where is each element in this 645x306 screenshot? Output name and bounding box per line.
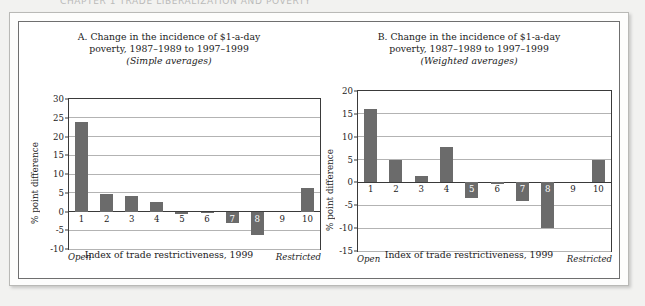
chart-b-y-tick-label: 0 xyxy=(348,177,353,187)
chart-a-bar xyxy=(301,188,314,212)
chart-a-y-tick-mark xyxy=(65,117,69,118)
chart-a-y-tick-label: 10 xyxy=(53,169,64,179)
panel-a-title: A. Change in the incidence of $1-a-day p… xyxy=(19,31,319,68)
chart-b-x-axis-title: Index of trade restrictiveness, 1999 xyxy=(319,249,619,260)
chart-a-gridline xyxy=(69,192,320,193)
chart-b-y-tick-mark xyxy=(354,205,358,206)
panel-a-title-line1: A. Change in the incidence of $1-a-day xyxy=(19,31,319,43)
chart-a-gridline xyxy=(69,230,320,231)
chart-a-bar xyxy=(125,196,138,212)
chart-a-gridline xyxy=(69,155,320,156)
chart-b-y-tick-label: -5 xyxy=(345,200,353,210)
chart-a-bar xyxy=(100,194,113,211)
chart-a-bar xyxy=(75,122,88,211)
chart-b-x-tick-label: 2 xyxy=(393,184,398,195)
panel-a: A. Change in the incidence of $1-a-day p… xyxy=(19,22,319,278)
chart-b-gridline xyxy=(358,205,611,206)
chart-a-y-tick-label: 15 xyxy=(53,150,64,160)
panel-b-title-line1: B. Change in the incidence of $1-a-day xyxy=(319,31,619,43)
chart-panels-container: A. Change in the incidence of $1-a-day p… xyxy=(19,22,619,278)
cut-off-running-header: CHAPTER 1 TRADE LIBERALIZATION AND POVER… xyxy=(60,0,460,6)
chart-a-y-tick-mark xyxy=(65,136,69,137)
figure-inner-frame: A. Change in the incidence of $1-a-day p… xyxy=(18,21,620,279)
chart-b-bar xyxy=(592,160,605,182)
chart-a-x-tick-label: 3 xyxy=(129,214,134,225)
chart-a-x-tick-label: 8 xyxy=(255,214,260,225)
chart-b-y-tick-mark xyxy=(354,113,358,114)
chart-a-x-tick-label: 7 xyxy=(229,214,234,225)
chart-b-y-tick-mark xyxy=(354,159,358,160)
chart-a-x-axis-title: Index of trade restrictiveness, 1999 xyxy=(19,249,319,260)
chart-a-y-tick-label: 25 xyxy=(53,113,64,123)
chart-b-x-tick-label: 6 xyxy=(494,184,499,195)
chart-a-y-axis-label: % point difference xyxy=(30,114,40,224)
panel-b: B. Change in the incidence of $1-a-day p… xyxy=(319,22,619,278)
chart-b-y-tick-mark xyxy=(354,91,358,92)
chart-b-y-tick-mark xyxy=(354,182,358,183)
chart-b-y-tick-label: 15 xyxy=(342,109,353,119)
chart-b-y-tick-mark xyxy=(354,228,358,229)
chart-b-x-tick-label: 3 xyxy=(419,184,424,195)
chart-a-x-tick-label: 9 xyxy=(280,214,285,225)
chart-a-y-tick-mark xyxy=(65,192,69,193)
panel-b-title: B. Change in the incidence of $1-a-day p… xyxy=(319,31,619,68)
chart-a-y-tick-label: 0 xyxy=(59,207,64,217)
chart-a-plot-area: 302520151050-5-1012345678910 xyxy=(68,98,321,250)
panel-b-subtitle: (Weighted averages) xyxy=(319,55,619,67)
chart-b-y-tick-label: 5 xyxy=(348,155,353,165)
chart-b: % point difference 20151050-5-10-1512345… xyxy=(357,90,612,252)
chart-b-x-tick-label: 10 xyxy=(593,184,604,195)
chart-b-y-tick-label: -10 xyxy=(339,223,353,233)
chart-a-y-tick-mark xyxy=(65,155,69,156)
chart-a-y-tick-mark xyxy=(65,230,69,231)
scanned-page: CHAPTER 1 TRADE LIBERALIZATION AND POVER… xyxy=(0,0,645,306)
panel-b-title-line2: poverty, 1987–1989 to 1997–1999 xyxy=(319,43,619,55)
chart-a-x-tick-label: 10 xyxy=(302,214,313,225)
figure-outer-frame: A. Change in the incidence of $1-a-day p… xyxy=(9,12,629,286)
chart-b-x-tick-label: 8 xyxy=(545,184,550,195)
chart-b-gridline xyxy=(358,113,611,114)
chart-a-y-tick-label: 30 xyxy=(53,94,64,104)
chart-b-x-tick-label: 4 xyxy=(444,184,449,195)
chart-a-bar xyxy=(201,212,214,213)
chart-a-y-tick-label: 5 xyxy=(59,188,64,198)
chart-b-plot-area: 20151050-5-10-1512345678910 xyxy=(357,90,612,252)
panel-a-title-line2: poverty, 1987–1989 to 1997–1999 xyxy=(19,43,319,55)
chart-a-y-tick-mark xyxy=(65,174,69,175)
chart-a-x-tick-label: 6 xyxy=(204,214,209,225)
chart-b-y-tick-label: 10 xyxy=(342,132,353,142)
chart-a-y-tick-mark xyxy=(65,211,69,212)
chart-a-gridline xyxy=(69,117,320,118)
chart-b-bar xyxy=(364,109,377,182)
chart-b-bar xyxy=(440,147,453,183)
chart-a-gridline xyxy=(69,136,320,137)
chart-a-x-tick-label: 4 xyxy=(154,214,159,225)
chart-b-x-tick-label: 1 xyxy=(368,184,373,195)
chart-b-x-tick-label: 9 xyxy=(570,184,575,195)
chart-a-x-tick-label: 2 xyxy=(104,214,109,225)
chart-a-x-tick-label: 1 xyxy=(79,214,84,225)
chart-b-bar xyxy=(415,176,428,183)
chart-a-y-tick-label: -5 xyxy=(56,225,64,235)
chart-a-bar xyxy=(150,202,163,212)
chart-a-gridline xyxy=(69,174,320,175)
chart-a-y-tick-mark xyxy=(65,99,69,100)
chart-b-x-tick-label: 7 xyxy=(520,184,525,195)
chart-a: % point difference 302520151050-5-101234… xyxy=(68,98,321,250)
chart-b-gridline xyxy=(358,228,611,229)
chart-b-gridline xyxy=(358,136,611,137)
chart-a-x-tick-label: 5 xyxy=(179,214,184,225)
chart-b-y-axis-label: % point difference xyxy=(325,116,335,231)
panel-a-subtitle: (Simple averages) xyxy=(19,55,319,67)
chart-b-bar xyxy=(389,160,402,182)
chart-b-y-tick-mark xyxy=(354,136,358,137)
chart-b-x-tick-label: 5 xyxy=(469,184,474,195)
chart-a-y-tick-label: 20 xyxy=(53,132,64,142)
chart-b-y-tick-label: 20 xyxy=(342,86,353,96)
